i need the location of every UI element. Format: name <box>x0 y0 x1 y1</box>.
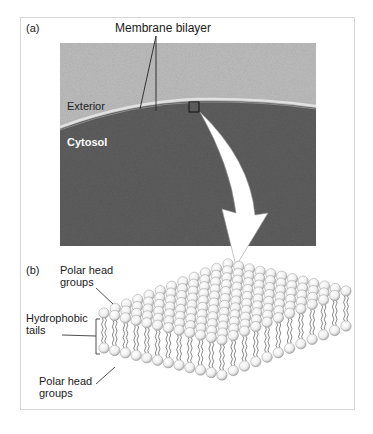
lipid-bilayer-illustration <box>0 0 373 434</box>
